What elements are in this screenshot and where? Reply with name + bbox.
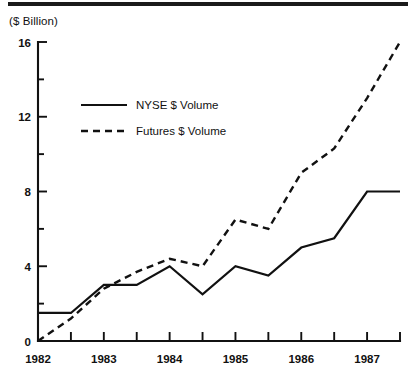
legend-label-nyse: NYSE $ Volume [136,99,218,111]
y-axis: 0481216 [18,37,47,348]
chart-figure: ($ Billion) 0481216 19821983198419851986… [0,0,414,383]
x-tick-label: 1984 [157,353,183,365]
y-axis-tick-labels: 0481216 [18,37,31,348]
y-tick-label: 16 [18,37,31,49]
y-tick-label: 0 [25,336,31,348]
legend-label-futures: Futures $ Volume [136,125,226,137]
y-tick-label: 12 [18,111,31,123]
x-tick-label: 1983 [91,353,117,365]
x-axis: 198219831984198519861987 [25,332,400,365]
y-tick-label: 4 [25,261,32,273]
chart-legend: NYSE $ Volume Futures $ Volume [81,99,226,137]
x-axis-tick-labels: 198219831984198519861987 [25,353,380,365]
line-chart-plot: 0481216 198219831984198519861987 NYSE $ … [0,0,414,383]
x-axis-ticks [38,332,400,341]
chart-series-group [38,42,400,341]
y-tick-label: 8 [25,186,32,198]
x-tick-label: 1982 [25,353,51,365]
series-line-nyse [38,192,400,313]
x-tick-label: 1987 [354,353,380,365]
y-axis-ticks [38,42,47,341]
x-tick-label: 1986 [288,353,314,365]
x-tick-label: 1985 [223,353,249,365]
